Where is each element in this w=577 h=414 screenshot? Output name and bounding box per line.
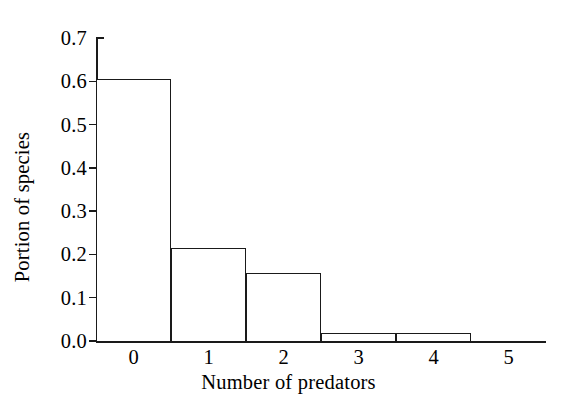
y-axis-title: Portion of species — [11, 132, 34, 283]
x-tick-label: 3 — [353, 347, 363, 368]
y-tick-label: 0.5 — [61, 114, 87, 135]
x-tick-label: 4 — [428, 347, 438, 368]
y-axis-title-container: Portion of species — [0, 0, 44, 414]
bar — [96, 79, 171, 342]
chart-figure: Portion of species 0.00.10.20.30.40.50.6… — [0, 0, 577, 414]
y-tick-label: 0.6 — [61, 71, 87, 92]
bar — [396, 333, 471, 342]
bar — [171, 248, 246, 343]
bar — [321, 333, 396, 342]
bar — [246, 273, 321, 343]
y-tick-label: 0.4 — [61, 158, 87, 179]
y-tick-label: 0.0 — [61, 331, 87, 352]
x-tick-label: 5 — [503, 347, 513, 368]
x-tick-label: 1 — [203, 347, 213, 368]
y-tick-label: 0.3 — [61, 201, 87, 222]
plot-area: 0.00.10.20.30.40.50.60.7 012345 — [96, 38, 546, 341]
y-tick-label: 0.1 — [61, 287, 87, 308]
x-tick-label: 0 — [128, 347, 138, 368]
x-tick-label: 2 — [278, 347, 288, 368]
y-tick-label: 0.7 — [61, 28, 87, 49]
x-axis-title: Number of predators — [0, 371, 577, 394]
y-tick-mark — [96, 37, 104, 38]
y-tick-label: 0.2 — [61, 244, 87, 265]
